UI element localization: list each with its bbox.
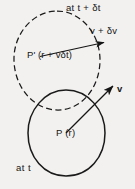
label-p-prime-position: P' (r + vδt) (27, 50, 72, 60)
label-p-position: P (r) (56, 128, 75, 138)
label-at-t-plus-delta-t: at t + δt (66, 3, 101, 13)
label-v-plus-delta-v: v + δv (90, 26, 117, 36)
label-v: v (117, 84, 122, 94)
label-at-t: at t (16, 163, 31, 173)
physics-diagram-fluid-element: at t + δt v + δv P' (r + vδt) v P (r) at… (0, 0, 135, 189)
fluid-element-at-t-plus-dt-outline (14, 11, 100, 110)
